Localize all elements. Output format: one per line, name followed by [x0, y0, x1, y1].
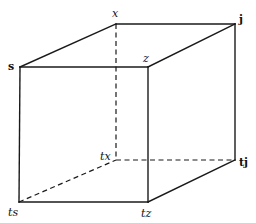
edge-s-x	[20, 24, 116, 67]
cube-diagram: x j s z tx tj ts tz	[0, 0, 256, 223]
label-z: z	[142, 52, 149, 65]
edge-z-j	[148, 24, 235, 67]
label-j: j	[238, 13, 243, 26]
label-x: x	[112, 7, 119, 20]
edge-tz-tj	[148, 160, 235, 202]
label-tx: tx	[100, 150, 111, 163]
label-s: s	[8, 60, 14, 73]
label-tj: tj	[239, 156, 248, 169]
label-ts: ts	[8, 206, 18, 219]
edge-s-ts	[19, 67, 20, 202]
edge-ts-tx	[19, 160, 116, 202]
label-tz: tz	[141, 207, 151, 220]
